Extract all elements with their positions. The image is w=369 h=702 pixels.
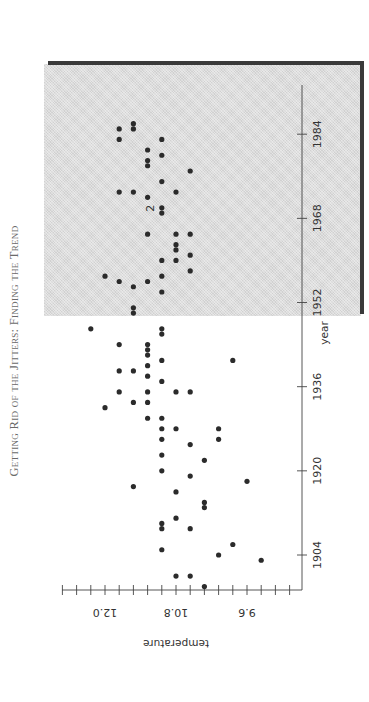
data-points — [88, 121, 264, 589]
data-point — [159, 179, 164, 184]
temperature-axis-title: temperature — [143, 638, 209, 650]
data-point — [188, 573, 193, 578]
data-point — [173, 247, 178, 252]
data-point — [188, 474, 193, 479]
temperature-tick-label: 9.6 — [238, 606, 256, 619]
data-point — [145, 147, 150, 152]
data-point — [145, 363, 150, 368]
data-point — [173, 242, 178, 247]
data-point — [230, 542, 235, 547]
data-point — [102, 405, 107, 410]
data-point — [202, 500, 207, 505]
data-point — [159, 547, 164, 552]
data-point — [159, 331, 164, 336]
data-point — [173, 232, 178, 237]
data-point — [173, 426, 178, 431]
data-point — [188, 253, 193, 258]
data-point — [159, 258, 164, 263]
data-point — [145, 347, 150, 352]
data-point — [159, 379, 164, 384]
data-point — [131, 126, 136, 131]
temperature-tick-label: 12.0 — [93, 606, 118, 619]
data-point — [159, 437, 164, 442]
data-point — [188, 442, 193, 447]
data-point — [159, 326, 164, 331]
data-point — [159, 416, 164, 421]
year-tick-label: 1904 — [311, 541, 324, 569]
data-point — [259, 558, 264, 563]
data-point — [216, 426, 221, 431]
data-point — [159, 526, 164, 531]
data-point — [117, 279, 122, 284]
year-tick-label: 1968 — [311, 204, 324, 232]
data-point — [145, 279, 150, 284]
data-point — [188, 389, 193, 394]
data-point — [131, 484, 136, 489]
data-point — [230, 358, 235, 363]
data-point — [159, 358, 164, 363]
data-point — [173, 516, 178, 521]
data-point — [159, 153, 164, 158]
data-point — [159, 289, 164, 294]
data-point — [117, 368, 122, 373]
data-point — [131, 121, 136, 126]
coincident-points-annotation: 2 — [144, 205, 157, 212]
data-point — [131, 284, 136, 289]
data-point — [145, 195, 150, 200]
scatter-plot: 190419201936195219681984 12.010.89.6 yea… — [0, 0, 369, 702]
data-point — [173, 189, 178, 194]
data-point — [102, 274, 107, 279]
data-point — [145, 400, 150, 405]
data-point — [131, 305, 136, 310]
data-point — [145, 416, 150, 421]
data-point — [188, 168, 193, 173]
data-point — [159, 426, 164, 431]
data-point — [145, 342, 150, 347]
temperature-tick-labels: 12.010.89.6 — [93, 606, 256, 619]
data-point — [159, 137, 164, 142]
data-point — [117, 389, 122, 394]
data-point — [117, 189, 122, 194]
data-point — [117, 126, 122, 131]
data-point — [159, 452, 164, 457]
data-point — [202, 458, 207, 463]
data-point — [131, 368, 136, 373]
data-point — [145, 374, 150, 379]
data-point — [188, 526, 193, 531]
data-point — [216, 437, 221, 442]
data-point — [173, 389, 178, 394]
data-point — [159, 468, 164, 473]
year-tick-label: 1936 — [311, 373, 324, 401]
data-point — [188, 232, 193, 237]
data-point — [131, 189, 136, 194]
data-point — [202, 505, 207, 510]
year-tick-label: 1952 — [311, 289, 324, 317]
data-point — [159, 211, 164, 216]
data-point — [173, 489, 178, 494]
data-point — [145, 158, 150, 163]
data-point — [159, 205, 164, 210]
data-point — [131, 310, 136, 315]
year-axis-title: year — [318, 321, 330, 345]
data-point — [216, 552, 221, 557]
data-point — [145, 163, 150, 168]
data-point — [244, 479, 249, 484]
year-tick-label: 1920 — [311, 457, 324, 485]
data-point — [173, 573, 178, 578]
data-point — [131, 400, 136, 405]
data-point — [88, 326, 93, 331]
data-point — [188, 268, 193, 273]
temperature-tick-label: 10.8 — [164, 606, 189, 619]
data-point — [117, 342, 122, 347]
year-tick-label: 1984 — [311, 120, 324, 148]
data-point — [117, 137, 122, 142]
data-point — [173, 258, 178, 263]
data-point — [145, 232, 150, 237]
data-point — [202, 584, 207, 589]
data-point — [159, 274, 164, 279]
data-point — [145, 353, 150, 358]
data-point — [145, 389, 150, 394]
data-point — [159, 521, 164, 526]
